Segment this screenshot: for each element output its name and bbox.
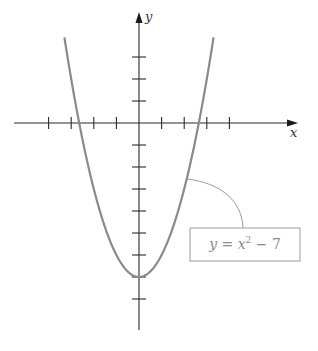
x-axis: x [14,117,298,140]
equation-label: y = x2 − 7 [208,235,281,252]
equation-callout: y = x2 − 7 [187,179,300,261]
x-axis-label: x [290,125,298,140]
y-axis-arrow-icon [136,12,143,23]
y-axis-label: y [144,9,153,24]
parabola-graph: x y y = x2 − 7 [0,0,318,351]
callout-leader-line [187,179,243,228]
y-axis: y [132,9,153,330]
